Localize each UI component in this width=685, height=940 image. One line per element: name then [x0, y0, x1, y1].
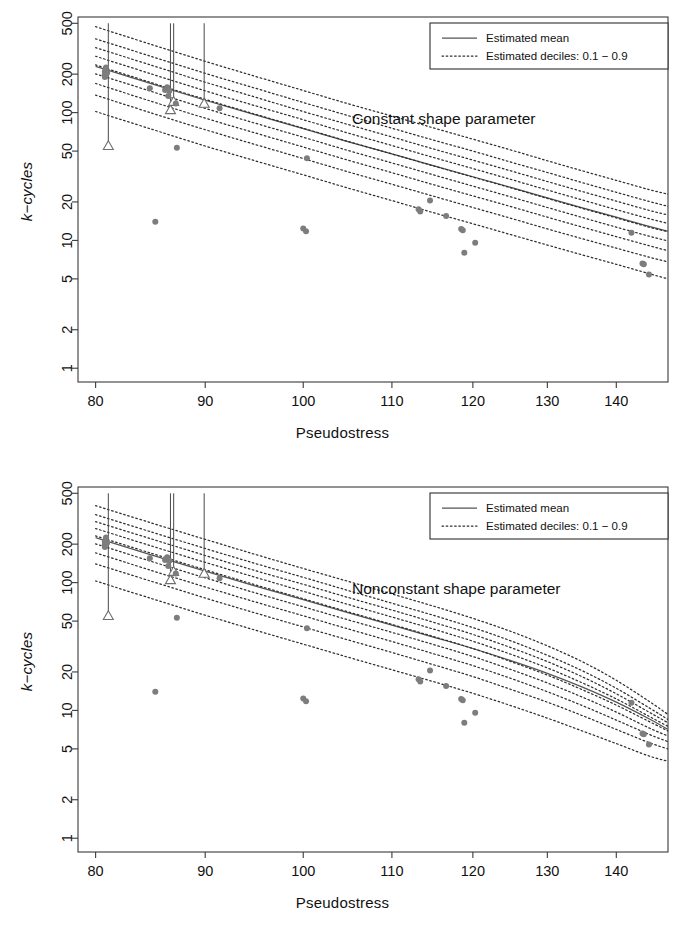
data-point	[166, 88, 172, 94]
data-point	[427, 668, 433, 674]
data-point	[417, 209, 423, 215]
y-tick-label: 100	[59, 101, 75, 125]
data-point	[427, 198, 433, 204]
data-point	[165, 563, 171, 569]
y-tick-label: 500	[59, 11, 75, 35]
mean-curve	[96, 66, 668, 231]
data-point	[165, 93, 171, 99]
y-tick-label: 500	[59, 481, 75, 505]
decile-curve	[96, 581, 668, 761]
data-point	[166, 558, 172, 564]
data-point	[103, 535, 109, 541]
data-point	[304, 155, 310, 161]
y-tick-label: 200	[59, 62, 75, 86]
plot-svg-nonconstant-shape: 1251020501002005008090100110120130140Est…	[0, 470, 685, 940]
data-point	[174, 615, 180, 621]
data-point	[147, 555, 153, 561]
y-tick-label: 5	[59, 275, 75, 283]
x-tick-label: 120	[461, 863, 485, 879]
data-point	[217, 575, 223, 581]
panel-caption-nonconstant-shape: Nonconstant shape parameter	[352, 580, 561, 598]
x-tick-label: 110	[380, 863, 403, 879]
decile-curve	[96, 515, 668, 720]
plot-area-nonconstant-shape: 1251020501002005008090100110120130140Est…	[59, 481, 668, 879]
y-tick-label: 50	[59, 613, 75, 629]
data-point	[628, 700, 634, 706]
mean-curve	[96, 538, 668, 730]
x-tick-label: 100	[291, 393, 315, 409]
data-point-censored	[103, 611, 113, 620]
decile-curve	[96, 536, 668, 731]
data-point	[646, 272, 652, 278]
x-tick-label: 130	[535, 863, 559, 879]
x-tick-label: 100	[291, 863, 315, 879]
data-point	[461, 250, 467, 256]
x-tick-label: 140	[604, 393, 628, 409]
data-point-censored	[103, 141, 113, 150]
decile-curve	[96, 48, 668, 215]
x-axis-title-bottom: Pseudostress	[0, 894, 685, 911]
plot-svg-constant-shape: 1251020501002005008090100110120130140Est…	[0, 0, 685, 470]
data-point	[103, 65, 109, 71]
y-axis-title-bottom-text: k−cycles	[18, 632, 35, 692]
data-point	[641, 731, 647, 737]
data-point	[628, 230, 634, 236]
decile-curve	[96, 83, 668, 250]
data-point	[646, 742, 652, 748]
data-point	[304, 625, 310, 631]
decile-curve	[96, 544, 668, 736]
data-point	[443, 683, 449, 689]
x-tick-label: 140	[604, 863, 628, 879]
data-point	[152, 689, 158, 695]
x-tick-label: 120	[461, 393, 485, 409]
legend: Estimated meanEstimated deciles: 0.1 − 0…	[430, 493, 668, 539]
y-tick-label: 20	[59, 664, 75, 680]
x-tick-label: 90	[197, 863, 213, 879]
legend-label-mean: Estimated mean	[486, 32, 569, 44]
y-axis-title-top: k−cycles	[18, 132, 35, 252]
figure-page: 1251020501002005008090100110120130140Est…	[0, 0, 685, 940]
x-axis-title-top: Pseudostress	[0, 424, 685, 441]
data-point	[104, 540, 110, 546]
data-point	[217, 105, 223, 111]
y-tick-label: 20	[59, 194, 75, 210]
legend-label-deciles: Estimated deciles: 0.1 − 0.9	[486, 50, 628, 62]
data-point	[417, 679, 423, 685]
decile-curve	[96, 74, 668, 241]
data-point	[443, 213, 449, 219]
data-point-censored	[165, 575, 175, 584]
data-point	[460, 697, 466, 703]
data-point	[152, 219, 158, 225]
y-axis-title-top-text: k−cycles	[18, 162, 35, 222]
x-tick-label: 90	[197, 393, 213, 409]
y-tick-label: 100	[59, 571, 75, 595]
data-point	[472, 710, 478, 716]
x-tick-label: 80	[88, 863, 104, 879]
legend-label-mean: Estimated mean	[486, 502, 569, 514]
legend: Estimated meanEstimated deciles: 0.1 − 0…	[430, 23, 668, 69]
data-point	[472, 240, 478, 246]
data-point	[104, 70, 110, 76]
y-tick-label: 2	[59, 796, 75, 804]
y-tick-label: 200	[59, 532, 75, 556]
chart-panel-constant-shape: 1251020501002005008090100110120130140Est…	[0, 0, 685, 470]
x-tick-label: 130	[535, 393, 559, 409]
data-point	[147, 85, 153, 91]
y-tick-label: 10	[59, 702, 75, 718]
y-tick-label: 10	[59, 232, 75, 248]
y-tick-label: 2	[59, 326, 75, 334]
plot-area-constant-shape: 1251020501002005008090100110120130140Est…	[59, 11, 668, 409]
y-axis-title-bottom: k−cycles	[18, 602, 35, 722]
data-point	[173, 100, 179, 106]
y-tick-label: 1	[59, 364, 75, 372]
data-point	[303, 228, 309, 234]
legend-label-deciles: Estimated deciles: 0.1 − 0.9	[486, 520, 628, 532]
chart-panel-nonconstant-shape: 1251020501002005008090100110120130140Est…	[0, 470, 685, 940]
data-point	[641, 261, 647, 267]
y-tick-label: 1	[59, 834, 75, 842]
data-point-censored	[165, 105, 175, 114]
y-tick-label: 50	[59, 143, 75, 159]
data-point	[303, 698, 309, 704]
x-tick-label: 110	[380, 393, 403, 409]
y-tick-label: 5	[59, 745, 75, 753]
